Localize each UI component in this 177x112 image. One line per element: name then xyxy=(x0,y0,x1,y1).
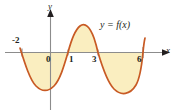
tick-label-1: 1 xyxy=(69,55,74,64)
tick-label-3: 3 xyxy=(92,55,97,64)
function-graph-figure: -2 0 1 3 6 x y y = f(x) xyxy=(0,0,177,112)
y-axis-label: y xyxy=(48,2,52,11)
plot-canvas xyxy=(0,0,177,112)
x-axis-label: x xyxy=(166,46,170,55)
tick-label-6: 6 xyxy=(137,55,142,64)
curve-fill-region xyxy=(22,25,143,94)
tick-label-neg2: -2 xyxy=(12,36,20,45)
tick-label-0: 0 xyxy=(46,55,51,64)
function-label: y = f(x) xyxy=(100,20,130,30)
